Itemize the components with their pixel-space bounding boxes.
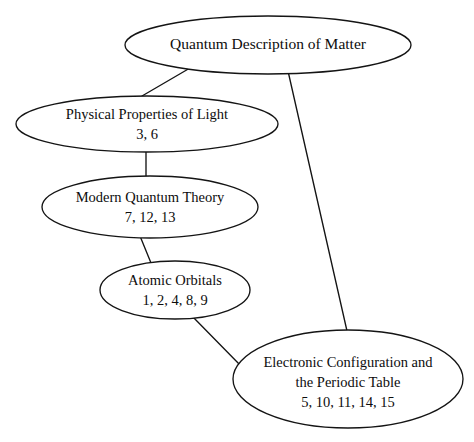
node-label-modern-quantum-theory: Modern Quantum Theory: [76, 189, 225, 205]
edge-modern-quantum-theory-to-atomic-orbitals: [140, 236, 151, 263]
node-numbers-modern-quantum-theory: 7, 12, 13: [125, 209, 176, 225]
node-electronic-configuration-and-the-periodic-table[interactable]: Electronic Configuration and the Periodi…: [233, 330, 463, 428]
node-label-quantum-description-of-matter: Quantum Description of Matter: [170, 35, 367, 52]
node-physical-properties-of-light[interactable]: Physical Properties of Light 3, 6: [16, 96, 278, 152]
node-label-electronic-configuration-line2: the Periodic Table: [295, 374, 400, 390]
node-ellipse-modern-quantum-theory[interactable]: [42, 176, 258, 238]
node-atomic-orbitals[interactable]: Atomic Orbitals 1, 2, 4, 8, 9: [100, 261, 250, 319]
concept-map-diagram: Quantum Description of Matter Physical P…: [0, 0, 474, 442]
node-numbers-atomic-orbitals: 1, 2, 4, 8, 9: [142, 292, 207, 308]
node-ellipse-physical-properties-of-light[interactable]: [16, 96, 278, 152]
node-label-electronic-configuration-line1: Electronic Configuration and: [263, 354, 433, 370]
edge-matter-to-light: [142, 68, 190, 96]
node-label-physical-properties-of-light: Physical Properties of Light: [66, 106, 228, 122]
node-quantum-description-of-matter[interactable]: Quantum Description of Matter: [125, 16, 411, 74]
node-numbers-electronic-configuration-and-the-periodic-table: 5, 10, 11, 14, 15: [301, 394, 395, 410]
node-modern-quantum-theory[interactable]: Modern Quantum Theory 7, 12, 13: [42, 176, 258, 238]
edge-atomic-orbitals-to-electronic-configuration: [192, 316, 241, 366]
edge-matter-to-electronic-configuration: [288, 71, 347, 331]
diagram-canvas: Quantum Description of Matter Physical P…: [0, 0, 474, 442]
node-label-atomic-orbitals: Atomic Orbitals: [128, 272, 222, 288]
node-ellipse-atomic-orbitals[interactable]: [100, 261, 250, 319]
node-numbers-physical-properties-of-light: 3, 6: [136, 126, 158, 142]
